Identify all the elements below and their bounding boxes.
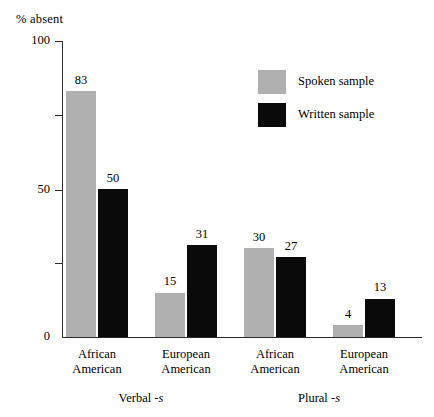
category-line-1: African — [230, 347, 320, 362]
category-label-plural-european: European American — [319, 347, 409, 378]
bar-verbal-african-spoken — [66, 91, 96, 337]
bar-value-plural-african-spoken: 30 — [244, 231, 274, 244]
category-line-1: European — [141, 347, 231, 362]
group-suffix: -s — [331, 391, 340, 405]
category-line-2: American — [141, 362, 231, 377]
bar-value-plural-african-written: 27 — [276, 240, 306, 253]
x-axis-line — [62, 337, 422, 338]
bar-plural-african-spoken — [244, 248, 274, 337]
group-suffix: -s — [154, 391, 163, 405]
bar-chart: % absent 100 50 0 83 50 15 31 30 27 — [0, 0, 434, 417]
y-tick-label-100-wrap: 100 — [0, 34, 50, 47]
category-line-2: American — [319, 362, 409, 377]
bar-verbal-european-written — [187, 245, 217, 337]
y-tick-label-100: 100 — [31, 34, 50, 47]
bar-value-verbal-european-spoken: 15 — [155, 275, 185, 288]
y-axis-title: % absent — [16, 12, 63, 27]
bar-value-verbal-african-written: 50 — [98, 172, 128, 185]
bar-plural-european-written — [365, 299, 395, 338]
group-label-verbal: Verbal -s — [81, 392, 201, 405]
y-tick-label-0: 0 — [44, 330, 50, 343]
legend-swatch-written-icon — [258, 103, 286, 127]
category-line-2: American — [52, 362, 142, 377]
category-label-plural-african: African American — [230, 347, 320, 378]
group-name: Verbal — [119, 391, 152, 405]
legend-swatch-spoken-icon — [258, 70, 286, 94]
legend-label-spoken: Spoken sample — [298, 75, 374, 88]
category-line-2: American — [230, 362, 320, 377]
plot-area: 83 50 15 31 30 27 4 13 Spoken sample Wri… — [62, 41, 422, 337]
bar-verbal-european-spoken — [155, 293, 185, 337]
bar-verbal-african-written — [98, 189, 128, 337]
category-line-1: African — [52, 347, 142, 362]
group-name: Plural — [298, 391, 328, 405]
category-label-verbal-african: African American — [52, 347, 142, 378]
bar-plural-african-written — [276, 257, 306, 337]
category-line-1: European — [319, 347, 409, 362]
bar-value-plural-european-written: 13 — [365, 281, 395, 294]
legend-label-written: Written sample — [298, 108, 374, 121]
category-label-verbal-european: European American — [141, 347, 231, 378]
y-tick-label-0-wrap: 0 — [0, 330, 50, 343]
bar-value-verbal-european-written: 31 — [187, 228, 217, 241]
y-tick-label-50: 50 — [38, 183, 51, 196]
bar-value-verbal-african-spoken: 83 — [66, 74, 96, 87]
y-tick-label-50-wrap: 50 — [0, 183, 50, 196]
bar-plural-european-spoken — [333, 325, 363, 337]
bar-value-plural-european-spoken: 4 — [333, 308, 363, 321]
group-label-plural: Plural -s — [259, 392, 379, 405]
